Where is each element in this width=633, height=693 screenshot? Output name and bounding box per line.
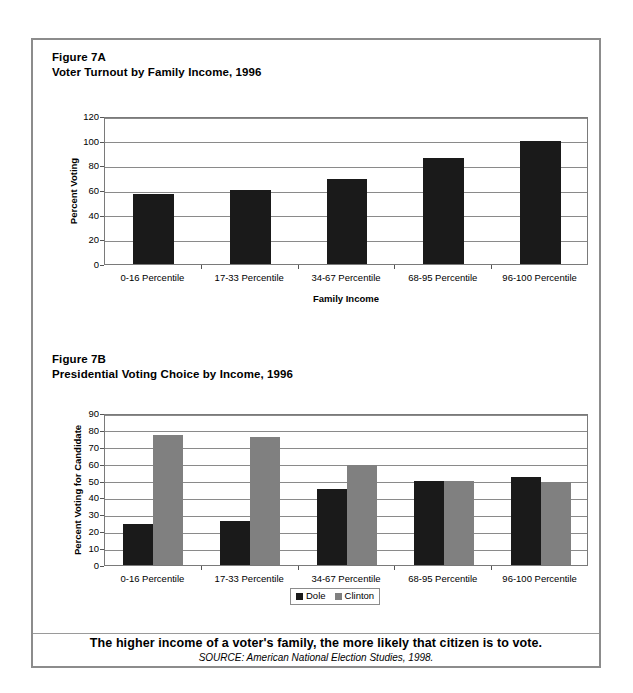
x-axis-category-label: 17-33 Percentile [201, 573, 298, 584]
y-axis-tick-label: 80 [77, 161, 99, 171]
bar-dole [511, 477, 541, 565]
x-axis-category-label: 34-67 Percentile [298, 272, 395, 283]
bar-percent-voting [520, 141, 561, 264]
bar-percent-voting [133, 194, 174, 264]
y-axis-tick-mark [100, 414, 104, 415]
gridline [105, 142, 587, 143]
y-axis-tick-mark [100, 498, 104, 499]
y-axis-tick-mark [100, 191, 104, 192]
y-axis-tick-label: 100 [77, 137, 99, 147]
x-axis-tick-mark [201, 265, 202, 269]
caption-main-text: The higher income of a voter's family, t… [33, 636, 599, 650]
y-axis-tick-label: 70 [83, 443, 99, 453]
y-axis-tick-mark [100, 465, 104, 466]
figure-page: Figure 7A Voter Turnout by Family Income… [0, 0, 633, 693]
y-axis-tick-label: 50 [83, 477, 99, 487]
x-axis-tick-mark [298, 566, 299, 570]
x-axis-tick-mark [394, 566, 395, 570]
y-axis-tick-mark [100, 532, 104, 533]
x-axis-category-label: 34-67 Percentile [298, 573, 395, 584]
x-axis-tick-mark [298, 265, 299, 269]
y-axis-tick-mark [100, 515, 104, 516]
legend-swatch-clinton [335, 593, 342, 600]
x-axis-tick-mark [491, 566, 492, 570]
y-axis-tick-mark [100, 448, 104, 449]
y-axis-tick-mark [100, 166, 104, 167]
legend-item-clinton[interactable]: Clinton [335, 590, 375, 602]
figure-7a-title: Voter Turnout by Family Income, 1996 [52, 65, 262, 80]
y-axis-tick-label: 0 [83, 561, 99, 571]
figure-7b-title: Presidential Voting Choice by Income, 19… [52, 367, 293, 382]
gridline [105, 431, 587, 432]
plot-area [104, 117, 588, 265]
y-axis-tick-label: 80 [83, 426, 99, 436]
y-axis-tick-label: 20 [83, 527, 99, 537]
bar-clinton [347, 465, 377, 565]
gridline [105, 415, 587, 416]
chart-legend: DoleClinton [290, 588, 380, 605]
bar-dole [414, 481, 444, 565]
y-axis-tick-mark [100, 142, 104, 143]
y-axis-tick-mark [100, 216, 104, 217]
x-axis-tick-mark [491, 265, 492, 269]
bar-clinton [541, 482, 571, 565]
y-axis-tick-label: 0 [77, 260, 99, 270]
y-axis-tick-label: 10 [83, 544, 99, 554]
bar-dole [220, 521, 250, 565]
legend-label-clinton: Clinton [345, 590, 375, 602]
bar-clinton [153, 435, 183, 565]
x-axis-category-label: 17-33 Percentile [201, 272, 298, 283]
legend-item-dole[interactable]: Dole [296, 590, 326, 602]
y-axis-tick-label: 90 [83, 409, 99, 419]
x-axis-category-label: 0-16 Percentile [104, 272, 201, 283]
y-axis-tick-label: 60 [77, 186, 99, 196]
figure-7b-label: Figure 7B [52, 352, 106, 367]
y-axis-tick-label: 30 [83, 510, 99, 520]
y-axis-tick-label: 20 [77, 235, 99, 245]
x-axis-tick-mark [201, 566, 202, 570]
y-axis-tick-mark [100, 482, 104, 483]
bar-dole [123, 524, 153, 565]
caption-box: The higher income of a voter's family, t… [33, 633, 599, 666]
caption-source-text: SOURCE: American National Election Studi… [33, 652, 599, 663]
x-axis-tick-mark [394, 265, 395, 269]
bar-clinton [250, 437, 280, 565]
x-axis-category-label: 68-95 Percentile [394, 573, 491, 584]
plot-area [104, 414, 588, 566]
bar-percent-voting [230, 190, 271, 264]
bar-dole [317, 489, 347, 565]
figure-7a-label: Figure 7A [52, 50, 106, 65]
y-axis-tick-mark [100, 265, 104, 266]
y-axis-tick-mark [100, 117, 104, 118]
y-axis-tick-label: 40 [77, 211, 99, 221]
gridline [105, 118, 587, 119]
x-axis-category-label: 0-16 Percentile [104, 573, 201, 584]
x-axis-category-label: 68-95 Percentile [394, 272, 491, 283]
bar-clinton [444, 481, 474, 565]
y-axis-tick-label: 120 [77, 112, 99, 122]
y-axis-tick-mark [100, 549, 104, 550]
y-axis-tick-mark [100, 240, 104, 241]
legend-label-dole: Dole [306, 590, 326, 602]
y-axis-tick-label: 60 [83, 460, 99, 470]
gridline [105, 167, 587, 168]
y-axis-tick-label: 40 [83, 493, 99, 503]
y-axis-tick-mark [100, 431, 104, 432]
y-axis-title: Percent Voting for Candidate [72, 414, 83, 566]
y-axis-tick-mark [100, 566, 104, 567]
bar-percent-voting [423, 158, 464, 264]
x-axis-title: Family Income [104, 293, 588, 304]
bar-percent-voting [327, 179, 368, 264]
y-axis-title: Percent Voting [68, 117, 79, 265]
legend-swatch-dole [296, 593, 303, 600]
x-axis-category-label: 96-100 Percentile [491, 573, 588, 584]
x-axis-category-label: 96-100 Percentile [491, 272, 588, 283]
